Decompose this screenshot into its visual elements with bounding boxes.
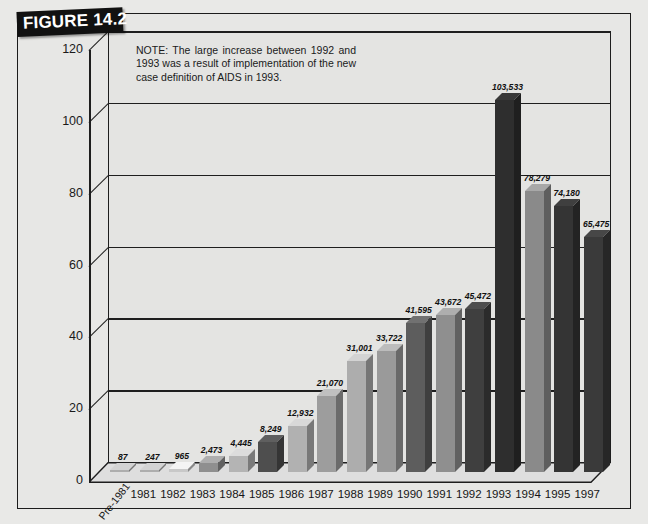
bar-front-face xyxy=(525,191,544,472)
bar-front-face xyxy=(554,206,573,472)
x-axis-tick-label: 1983 xyxy=(190,488,216,500)
bar-side-face xyxy=(336,389,343,472)
figure-number-banner: FIGURE 14.2 xyxy=(16,7,123,37)
bar-value-label: 12,932 xyxy=(287,408,313,418)
bar-front-face xyxy=(258,442,277,472)
bar-front-face xyxy=(465,309,484,472)
bar-value-label: 43,672 xyxy=(435,297,461,307)
bar-side-face xyxy=(544,184,551,472)
bar[interactable] xyxy=(495,100,514,472)
bar[interactable] xyxy=(199,463,218,472)
x-axis-tick-label: 1984 xyxy=(219,488,245,500)
bar-side-face xyxy=(455,308,462,472)
x-axis-tick-label: 1994 xyxy=(515,488,541,500)
bar[interactable] xyxy=(317,396,336,472)
bar-value-label: 8,249 xyxy=(260,424,282,434)
bar-value-label: 247 xyxy=(145,452,159,462)
x-axis-tick-label: 1997 xyxy=(574,488,600,500)
bar-front-face xyxy=(288,426,307,472)
x-axis-tick-label: 1988 xyxy=(338,488,364,500)
bar[interactable] xyxy=(584,237,603,472)
bar-value-label: 21,070 xyxy=(317,378,343,388)
bar-value-label: 31,001 xyxy=(346,343,372,353)
bar[interactable] xyxy=(465,309,484,472)
x-axis-tick-label: 1985 xyxy=(249,488,275,500)
figure-number-label: FIGURE 14.2 xyxy=(23,9,128,34)
bar-value-label: 78,279 xyxy=(524,173,550,183)
bar-front-face xyxy=(199,463,218,472)
chart-note: NOTE: The large increase between 1992 an… xyxy=(127,36,365,93)
bar-front-face xyxy=(406,323,425,472)
bar[interactable] xyxy=(169,469,188,472)
bar[interactable] xyxy=(140,470,159,472)
bar[interactable] xyxy=(229,456,248,472)
bar-side-face xyxy=(277,435,284,472)
bar-side-face xyxy=(603,230,610,472)
bar-front-face xyxy=(377,351,396,472)
bar[interactable] xyxy=(554,206,573,472)
bar[interactable] xyxy=(258,442,277,472)
bar[interactable] xyxy=(288,426,307,472)
bar[interactable] xyxy=(436,315,455,472)
bar-side-face xyxy=(425,316,432,472)
x-axis-tick-label: 1989 xyxy=(367,488,393,500)
bar-value-label: 103,533 xyxy=(492,82,523,92)
bar-front-face xyxy=(317,396,336,472)
chart-plot-area: 020406080100120 NOTE: The large increase… xyxy=(18,14,632,510)
x-axis-tick-label: 1981 xyxy=(131,488,157,500)
x-axis-tick-label: 1992 xyxy=(456,488,482,500)
bar[interactable] xyxy=(110,470,129,472)
bar-front-face xyxy=(347,361,366,472)
bar[interactable] xyxy=(377,351,396,472)
bar-value-label: 4,445 xyxy=(230,438,252,448)
bar-value-label: 74,180 xyxy=(553,188,579,198)
bar-side-face xyxy=(396,344,403,472)
bar-front-face xyxy=(495,100,514,472)
bar-front-face xyxy=(140,470,159,472)
bar-side-face xyxy=(366,354,373,472)
bar-value-label: 41,595 xyxy=(406,305,432,315)
bar-front-face xyxy=(584,237,603,472)
bar-value-label: 2,473 xyxy=(201,445,223,455)
bar-value-label: 965 xyxy=(175,451,189,461)
bar-front-face xyxy=(229,456,248,472)
bar-value-label: 33,722 xyxy=(376,333,402,343)
bar[interactable] xyxy=(347,361,366,472)
bar-front-face xyxy=(169,469,188,472)
bar[interactable] xyxy=(525,191,544,472)
bar-side-face xyxy=(484,302,491,472)
bar-value-label: 65,475 xyxy=(583,219,609,229)
figure-frame: 020406080100120 NOTE: The large increase… xyxy=(17,13,631,509)
bar-value-label: 45,472 xyxy=(465,291,491,301)
bar-front-face xyxy=(110,470,129,472)
bar-front-face xyxy=(436,315,455,472)
bar[interactable] xyxy=(406,323,425,472)
x-axis-tick-label: 1991 xyxy=(426,488,452,500)
bar-value-label: 87 xyxy=(118,452,128,462)
x-axis-tick-label: 1990 xyxy=(397,488,423,500)
x-axis-tick-label: 1995 xyxy=(545,488,571,500)
x-axis-tick-label: 1993 xyxy=(486,488,512,500)
x-axis-tick-label: 1986 xyxy=(279,488,305,500)
x-axis-tick-label: 1982 xyxy=(160,488,186,500)
bar-side-face xyxy=(514,93,521,472)
bar-side-face xyxy=(573,199,580,472)
x-axis-tick-label: 1987 xyxy=(308,488,334,500)
bar-side-face xyxy=(307,419,314,472)
